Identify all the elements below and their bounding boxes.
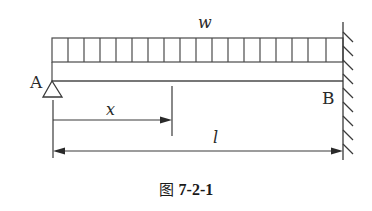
pin-support-icon (43, 81, 62, 97)
beam (52, 62, 343, 81)
support-b-label: B (322, 90, 335, 107)
length-l-label: l (213, 130, 218, 146)
fixed-wall-icon (343, 22, 353, 160)
l-dimension-arrow (53, 148, 343, 155)
dimension-lines (53, 86, 172, 158)
support-a-label: A (30, 74, 42, 91)
distributed-load (52, 38, 343, 62)
load-label: w (198, 15, 212, 31)
position-x-label: x (106, 102, 115, 118)
figure-caption: 图 7-2-1 (0, 178, 372, 199)
caption-number: 7-2-1 (179, 181, 214, 198)
caption-prefix: 图 (159, 181, 174, 199)
